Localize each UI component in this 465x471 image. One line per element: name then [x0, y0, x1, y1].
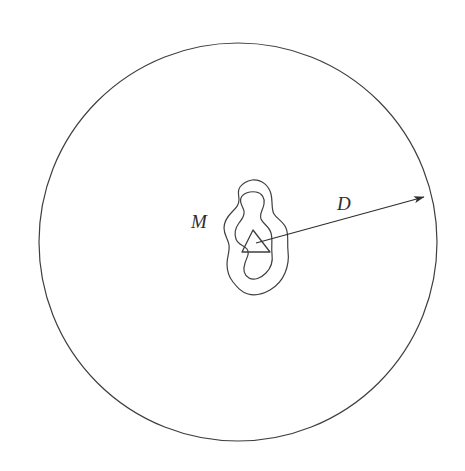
diagram-canvas: M D — [0, 0, 465, 471]
mass-label: M — [190, 211, 208, 232]
diagram-svg: M D — [0, 0, 465, 471]
distance-label: D — [336, 193, 351, 214]
mass-inner-contour — [235, 192, 272, 279]
